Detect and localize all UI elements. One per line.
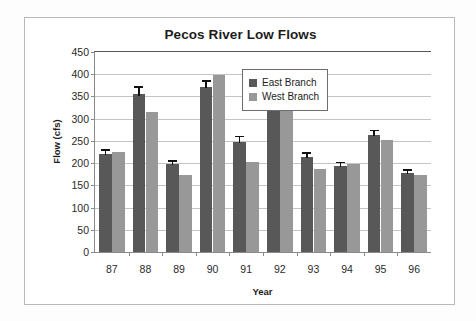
y-tick-mark xyxy=(91,185,95,186)
chart-legend: East BranchWest Branch xyxy=(242,69,328,111)
chart-frame: Pecos River Low Flows Flow (cfs) 0501001… xyxy=(24,17,455,305)
x-tick-mark xyxy=(297,252,298,256)
y-tick-label: 400 xyxy=(71,68,89,80)
y-tick-label: 250 xyxy=(71,135,89,147)
chart-root: Pecos River Low Flows Flow (cfs) 0501001… xyxy=(0,0,476,321)
y-axis-title: Flow (cfs) xyxy=(51,97,62,187)
y-tick-label: 450 xyxy=(71,46,89,58)
x-tick-mark xyxy=(330,252,331,256)
x-tick-mark xyxy=(129,252,130,256)
error-bar-cap-top xyxy=(134,86,143,88)
x-tick-label: 92 xyxy=(274,263,286,275)
legend-label: West Branch xyxy=(262,91,319,102)
y-tick-mark xyxy=(91,208,95,209)
x-tick-label: 94 xyxy=(341,263,353,275)
bar-east-branch xyxy=(133,94,146,252)
y-tick-mark xyxy=(91,96,95,97)
bar-west-branch xyxy=(112,152,125,252)
x-tick-mark xyxy=(229,252,230,256)
legend-swatch-icon xyxy=(249,93,257,101)
y-tick-label: 100 xyxy=(71,202,89,214)
y-tick-label: 0 xyxy=(83,246,89,258)
error-bar-cap-top xyxy=(101,149,110,151)
bar-west-branch xyxy=(414,175,427,252)
error-bar-cap-top xyxy=(202,80,211,82)
bar-east-branch xyxy=(401,173,414,252)
x-tick-mark xyxy=(162,252,163,256)
error-bar-cap-top xyxy=(336,162,345,164)
bar-west-branch xyxy=(179,175,192,252)
y-tick-label: 350 xyxy=(71,90,89,102)
bar-west-branch xyxy=(213,75,226,252)
bar-west-branch xyxy=(280,107,293,252)
error-bar-cap-top xyxy=(168,160,177,162)
x-tick-label: 87 xyxy=(106,263,118,275)
error-bar-cap-top xyxy=(370,130,379,132)
y-tick-mark xyxy=(91,141,95,142)
y-tick-mark xyxy=(91,74,95,75)
x-tick-mark xyxy=(397,252,398,256)
bar-east-branch xyxy=(99,154,112,252)
bar-west-branch xyxy=(381,140,394,252)
bar-west-branch xyxy=(347,164,360,252)
legend-entry: East Branch xyxy=(249,77,319,88)
error-bar-cap-top xyxy=(302,152,311,154)
y-tick-mark xyxy=(91,230,95,231)
bar-east-branch xyxy=(267,108,280,252)
error-bar-cap-top xyxy=(403,169,412,171)
y-tick-label: 300 xyxy=(71,113,89,125)
x-axis-title: Year xyxy=(94,286,431,297)
bar-east-branch xyxy=(334,166,347,252)
legend-label: East Branch xyxy=(262,77,316,88)
x-tick-label: 89 xyxy=(173,263,185,275)
bar-east-branch xyxy=(301,157,314,252)
legend-swatch-icon xyxy=(249,79,257,87)
error-bar-cap-top xyxy=(235,136,244,138)
x-tick-label: 90 xyxy=(207,263,219,275)
x-tick-label: 88 xyxy=(140,263,152,275)
x-tick-label: 95 xyxy=(375,263,387,275)
bar-west-branch xyxy=(314,169,327,252)
x-tick-mark xyxy=(364,252,365,256)
bar-east-branch xyxy=(368,135,381,252)
chart-title: Pecos River Low Flows xyxy=(25,27,456,42)
bar-west-branch xyxy=(146,112,159,252)
legend-entry: West Branch xyxy=(249,91,319,102)
bar-west-branch xyxy=(246,162,259,252)
x-tick-label: 96 xyxy=(408,263,420,275)
y-tick-mark xyxy=(91,163,95,164)
x-tick-mark xyxy=(263,252,264,256)
y-tick-mark xyxy=(91,119,95,120)
y-tick-mark xyxy=(91,252,95,253)
bar-east-branch xyxy=(233,142,246,252)
x-tick-label: 91 xyxy=(240,263,252,275)
bar-east-branch xyxy=(166,164,179,252)
x-tick-mark xyxy=(196,252,197,256)
y-tick-label: 150 xyxy=(71,179,89,191)
y-tick-label: 50 xyxy=(77,224,89,236)
y-tick-label: 200 xyxy=(71,157,89,169)
y-tick-mark xyxy=(91,52,95,53)
bar-east-branch xyxy=(200,87,213,252)
x-tick-label: 93 xyxy=(308,263,320,275)
